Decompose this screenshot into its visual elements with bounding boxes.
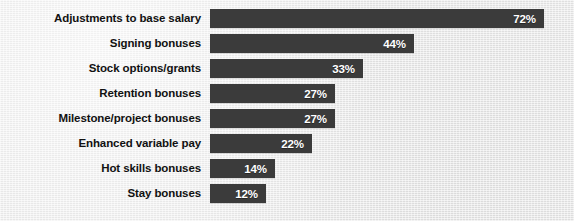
bar-fill: 22% bbox=[210, 134, 312, 153]
bar-category-label: Retention bonuses bbox=[99, 84, 210, 103]
bar-track: 72% bbox=[210, 9, 544, 28]
bar-category-label: Enhanced variable pay bbox=[78, 134, 210, 153]
bar-track: 33% bbox=[210, 59, 363, 78]
bar-category-label: Milestone/project bonuses bbox=[58, 109, 210, 128]
bar-fill: 27% bbox=[210, 84, 335, 103]
bar-category-label: Stay bonuses bbox=[127, 184, 210, 203]
bar-category-label: Signing bonuses bbox=[110, 34, 210, 53]
bar-fill: 27% bbox=[210, 109, 335, 128]
bar-category-label: Stock options/grants bbox=[89, 59, 210, 78]
bar-value-label: 44% bbox=[383, 38, 414, 50]
bar-track: 44% bbox=[210, 34, 414, 53]
bar-fill: 72% bbox=[210, 9, 544, 28]
bar-value-label: 27% bbox=[304, 88, 335, 100]
bar-track: 27% bbox=[210, 84, 335, 103]
bar-row: Hot skills bonuses14% bbox=[0, 159, 574, 178]
bar-track: 27% bbox=[210, 109, 335, 128]
bar-row: Signing bonuses44% bbox=[0, 34, 574, 53]
bar-track: 14% bbox=[210, 159, 275, 178]
bar-fill: 33% bbox=[210, 59, 363, 78]
bar-value-label: 22% bbox=[281, 138, 312, 150]
bar-row: Stay bonuses12% bbox=[0, 184, 574, 203]
bar-row: Adjustments to base salary72% bbox=[0, 9, 574, 28]
bar-row: Enhanced variable pay22% bbox=[0, 134, 574, 153]
bar-value-label: 72% bbox=[513, 13, 544, 25]
bar-row: Stock options/grants33% bbox=[0, 59, 574, 78]
bar-row: Milestone/project bonuses27% bbox=[0, 109, 574, 128]
bar-row: Retention bonuses27% bbox=[0, 84, 574, 103]
bar-fill: 44% bbox=[210, 34, 414, 53]
bar-category-label: Hot skills bonuses bbox=[101, 159, 210, 178]
bar-value-label: 27% bbox=[304, 113, 335, 125]
bar-value-label: 14% bbox=[244, 163, 275, 175]
bar-value-label: 33% bbox=[332, 63, 363, 75]
bar-value-label: 12% bbox=[235, 188, 266, 200]
bar-track: 12% bbox=[210, 184, 266, 203]
bar-fill: 12% bbox=[210, 184, 266, 203]
horizontal-bar-chart: Adjustments to base salary72%Signing bon… bbox=[0, 0, 574, 221]
bar-fill: 14% bbox=[210, 159, 275, 178]
bar-category-label: Adjustments to base salary bbox=[54, 9, 210, 28]
bar-track: 22% bbox=[210, 134, 312, 153]
